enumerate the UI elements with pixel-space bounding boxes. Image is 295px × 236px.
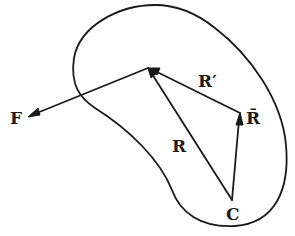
label-r-bar: R̄ — [246, 108, 261, 128]
label-f: F — [10, 108, 22, 128]
label-r: R — [172, 136, 187, 156]
vector-r-bar — [232, 112, 243, 200]
vector-f — [28, 68, 148, 117]
rigid-body-diagram: F R′ R̄ R C — [0, 0, 295, 236]
arrowhead-icon — [236, 112, 243, 125]
label-c: C — [226, 204, 240, 224]
label-r-prime: R′ — [198, 71, 217, 91]
arrowhead-icon — [28, 108, 40, 117]
